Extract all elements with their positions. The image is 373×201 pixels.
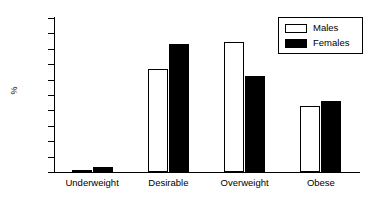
bar-obese-females [321, 101, 341, 172]
y-axis-tick: 35 [0, 64, 54, 65]
y-axis-label: % [10, 79, 19, 103]
y-axis-tick: 20 [0, 110, 54, 111]
y-axis-tick: 10 [0, 141, 54, 142]
y-axis-tick: 25 [0, 95, 54, 96]
bar-obese-males [300, 106, 320, 172]
chart-legend: Males Females [278, 17, 363, 54]
y-axis-tick: 15 [0, 126, 54, 127]
bar-chart: % 05101520253035404550 UnderweightDesira… [0, 0, 373, 201]
legend-label-males: Males [313, 23, 338, 33]
y-axis-tick: 40 [0, 49, 54, 50]
legend-swatch-females-icon [285, 39, 307, 48]
legend-item-females: Females [285, 37, 349, 49]
legend-swatch-males-icon [285, 24, 307, 33]
y-axis-tick: 50 [0, 18, 54, 19]
y-axis-tick: 0 [0, 172, 54, 173]
y-axis-tick-mark [48, 172, 54, 173]
legend-item-males: Males [285, 22, 338, 34]
bar-underweight-females [93, 167, 113, 172]
bar-overweight-males [224, 42, 244, 172]
legend-label-females: Females [313, 38, 349, 48]
y-axis-tick: 45 [0, 33, 54, 34]
x-axis-line [54, 172, 360, 173]
bar-desirable-males [148, 69, 168, 172]
bar-overweight-females [245, 76, 265, 172]
y-axis-tick: 30 [0, 80, 54, 81]
y-axis-tick: 5 [0, 157, 54, 158]
x-axis-label-obese: Obese [261, 177, 373, 188]
bar-underweight-males [72, 170, 92, 172]
bar-desirable-females [169, 44, 189, 172]
